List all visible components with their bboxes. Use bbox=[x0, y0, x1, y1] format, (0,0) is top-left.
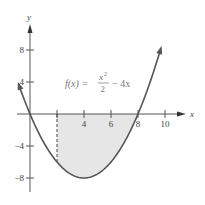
formula-prefix: f(x) = bbox=[65, 78, 88, 90]
x-axis-arrow-icon bbox=[177, 112, 186, 117]
function-formula: f(x) = x 2 2 − 4x bbox=[65, 71, 130, 94]
y-tick-label: −4 bbox=[14, 141, 24, 151]
shaded-area-region bbox=[57, 114, 138, 178]
x-axis-label: x bbox=[189, 109, 194, 119]
y-axis-label: y bbox=[26, 12, 31, 22]
y-axis: y bbox=[26, 12, 33, 192]
x-tick-label: 6 bbox=[109, 119, 114, 129]
formula-numerator: x bbox=[98, 72, 103, 82]
x-tick-label: 10 bbox=[161, 119, 171, 129]
function-graph: x y 46810 84−4−8 f(x) = x 2 2 − 4x bbox=[0, 0, 205, 205]
curve-right-arrow-icon bbox=[156, 46, 162, 55]
formula-exponent: 2 bbox=[104, 71, 107, 77]
x-tick-label: 8 bbox=[136, 119, 141, 129]
y-axis-arrow-icon bbox=[28, 24, 33, 33]
svg-text:f(x) =: f(x) = bbox=[65, 78, 88, 90]
y-tick-label: 8 bbox=[20, 45, 25, 55]
y-tick-label: −8 bbox=[14, 173, 24, 183]
formula-denominator: 2 bbox=[101, 84, 106, 94]
formula-suffix: − 4x bbox=[112, 78, 130, 89]
x-tick-label: 4 bbox=[82, 119, 87, 129]
